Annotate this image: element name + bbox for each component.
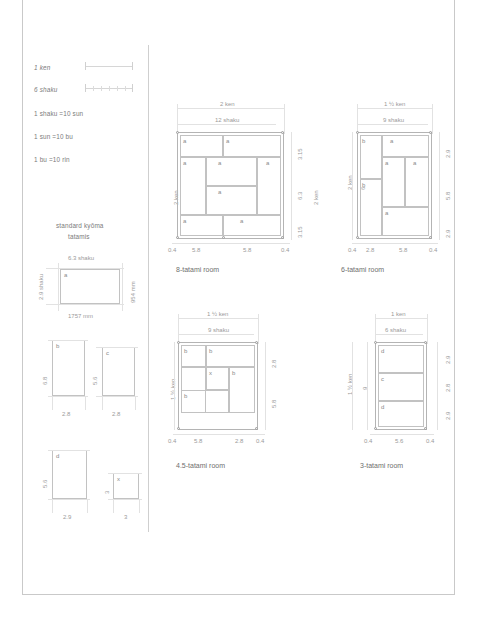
room-8-bottom-dim: 0.4 bbox=[281, 247, 289, 253]
partial-mat-b-dim-width: 2.8 bbox=[62, 411, 70, 417]
room-45-top-dim-shaku: 9 shaku bbox=[208, 327, 229, 333]
room-45-left-dim-ken: 1 ½ ken bbox=[170, 379, 176, 400]
room-3-bottom-dim: 0.4 bbox=[364, 438, 372, 444]
standard-tatami-dim-left: 2.9 shaku bbox=[38, 274, 44, 300]
room-8-mat-label: a bbox=[218, 189, 221, 195]
room-3-top-dim-shaku: 6 shaku bbox=[385, 327, 406, 333]
room-45-bottom-dim: 0.4 bbox=[168, 438, 176, 444]
partial-mat-b-label: b bbox=[56, 343, 59, 349]
room-45-mat-label: b bbox=[184, 393, 187, 399]
room-8-bottom-dim: 5.8 bbox=[243, 247, 251, 253]
partial-mat-c-dim-width: 2.8 bbox=[112, 411, 120, 417]
room-3-mat-label: c bbox=[381, 376, 384, 382]
room-45-bottom-dim: 2.8 bbox=[235, 438, 243, 444]
room-3-caption: 3-tatami room bbox=[360, 462, 403, 469]
room-8-mat-label: a bbox=[266, 160, 269, 166]
room-6-right-dim: 2.9 bbox=[445, 150, 451, 158]
room-45-top-dim-ken: 1 ½ ken bbox=[207, 311, 228, 317]
room-3-mat-label: d bbox=[381, 404, 384, 410]
room-8-mat-label: a bbox=[183, 138, 186, 144]
partial-mat-c-label: c bbox=[106, 350, 109, 356]
room-6-right-dim: 5.8 bbox=[445, 192, 451, 200]
room-6-bottom-dim: 2.8 bbox=[366, 247, 374, 253]
partial-mat-x-label: x bbox=[117, 476, 120, 482]
partial-mat-b-dim-height: 6.8 bbox=[42, 377, 48, 385]
room-3-mat bbox=[378, 401, 424, 427]
room-6-bottom-dim: 0.4 bbox=[429, 247, 437, 253]
room-45-caption: 4.5-tatami room bbox=[176, 462, 225, 469]
room-45-mat-label: x bbox=[209, 370, 212, 376]
room-8-right-dim: 3.15 bbox=[297, 148, 303, 160]
room-8-bottom-dim: 0.4 bbox=[168, 247, 176, 253]
room-3-top-dim-ken: 1 ken bbox=[391, 311, 406, 317]
legend-label-shaku: 6 shaku bbox=[34, 86, 57, 93]
room-45-mat-label: b bbox=[184, 348, 187, 354]
standard-tatami-heading-line2: tatamis bbox=[68, 233, 90, 240]
partial-mat-x-dim-height: 3 bbox=[104, 491, 110, 494]
room-3-mat bbox=[378, 345, 424, 373]
room-8-mat bbox=[180, 135, 223, 157]
standard-tatami-dim-bottom: 1757 mm bbox=[68, 313, 93, 319]
room-3-right-dim: 2.9 bbox=[445, 412, 451, 420]
conversion-shaku-sun: 1 shaku =10 sun bbox=[34, 110, 83, 117]
room-3-right-dim: 2.8 bbox=[445, 384, 451, 392]
standard-tatami-dim-top: 6.3 shaku bbox=[68, 255, 94, 261]
standard-tatami-heading-line1: standard kyōma bbox=[56, 222, 104, 229]
room-8-mat-label: a bbox=[183, 218, 186, 224]
standard-tatami-mat bbox=[60, 269, 120, 304]
room-8-bottom-dim: 5.8 bbox=[192, 247, 200, 253]
room-45-mat-label: b bbox=[209, 348, 212, 354]
room-6-bottom-dim: 0.4 bbox=[348, 247, 356, 253]
room-45-bottom-dim: 5.8 bbox=[194, 438, 202, 444]
room-45-mat bbox=[206, 345, 255, 367]
room-8-top-dim-shaku: 12 shaku bbox=[215, 117, 239, 123]
column-divider bbox=[148, 45, 149, 532]
room-6-top-dim-shaku: 9 shaku bbox=[383, 117, 404, 123]
room-6-mat-label: b bbox=[362, 138, 365, 144]
standard-tatami-dim-right: 954 mm bbox=[130, 281, 136, 303]
room-3-right-dim: 2.9 bbox=[445, 356, 451, 364]
room-8-caption: 8-tatami room bbox=[176, 266, 219, 273]
conversion-sun-bu: 1 sun =10 bu bbox=[34, 133, 73, 140]
room-8-right-dim-ken: 2 ken bbox=[313, 190, 319, 205]
room-3-bottom-dim: 0.4 bbox=[426, 438, 434, 444]
room-3-bottom-dim: 5.6 bbox=[395, 438, 403, 444]
room-45-right-dim: 2.8 bbox=[271, 360, 277, 368]
room-45-mat bbox=[181, 390, 229, 413]
room-6-bottom-dim: 5.8 bbox=[399, 247, 407, 253]
room-6-mat bbox=[382, 207, 429, 236]
room-6-mat bbox=[405, 157, 429, 207]
room-6-top-dim-ken: 1 ½ ken bbox=[384, 101, 405, 107]
room-8-mat bbox=[180, 215, 223, 236]
partial-mat-d-label: d bbox=[56, 453, 59, 459]
room-8-mat-label: a bbox=[240, 218, 243, 224]
room-8-mat-label: a bbox=[183, 160, 186, 166]
partial-mat-x-dim-width: 3 bbox=[124, 514, 127, 520]
room-8-mat bbox=[223, 135, 281, 157]
room-6-mat-label: a bbox=[385, 210, 388, 216]
room-8-mat-label: a bbox=[218, 160, 221, 166]
room-6-mat-label: a bbox=[390, 138, 393, 144]
scale-bar-icon-shaku bbox=[85, 84, 133, 93]
legend-label-ken: 1 ken bbox=[34, 64, 50, 71]
room-3-mat bbox=[378, 373, 424, 401]
room-45-bottom-dim: 0.4 bbox=[256, 438, 264, 444]
scale-bar-icon-ken bbox=[85, 62, 133, 71]
partial-mat-d-dim-height: 5.6 bbox=[42, 480, 48, 488]
room-6-mat-label: a bbox=[385, 160, 388, 166]
room-8-mat bbox=[206, 157, 257, 186]
partial-mat-c-dim-height: 5.6 bbox=[92, 377, 98, 385]
room-8-top-dim-ken: 2 ken bbox=[220, 101, 235, 107]
room-8-right-dim: 6.3 bbox=[297, 192, 303, 200]
room-8-mat bbox=[223, 215, 281, 236]
room-6-mat-label: b bbox=[362, 182, 365, 188]
room-3-mat-label: d bbox=[381, 348, 384, 354]
room-45-mat-label: b bbox=[232, 370, 235, 376]
room-8-mat-label: a bbox=[226, 138, 229, 144]
standard-tatami-mat-label: a bbox=[64, 272, 67, 278]
room-6-mat-label: a bbox=[413, 160, 416, 166]
room-6-right-dim: 2.9 bbox=[445, 230, 451, 238]
room-45-right-dim: 5.8 bbox=[271, 400, 277, 408]
conversion-bu-rin: 1 bu =10 rin bbox=[34, 156, 70, 163]
partial-mat-d-dim-width: 2.9 bbox=[63, 514, 71, 520]
